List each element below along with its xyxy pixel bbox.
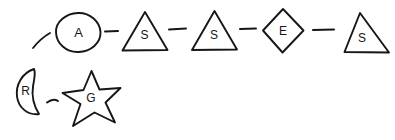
connector-s2-to-e [240,29,256,30]
node-s2-label: S [210,28,218,42]
node-s-triangle-1[interactable]: S [123,12,168,51]
node-r-crescent[interactable]: R [17,69,39,114]
node-s3-label: S [358,31,366,45]
node-g-label: G [86,91,95,105]
node-r-label: R [21,84,30,98]
node-a-circle[interactable]: A [56,13,101,52]
node-a-label: A [74,25,83,40]
node-s-triangle-3[interactable]: S [345,13,390,53]
node-s1-label: S [140,28,148,42]
node-e-diamond[interactable]: E [263,9,304,53]
node-g-star[interactable]: G [63,71,121,126]
connector-e-to-s3 [313,30,334,31]
connector-r-to-g [47,100,58,103]
sketch-drawing: A S S E [0,0,395,140]
connector-a-to-s1 [105,31,118,32]
node-e-label: E [279,24,287,38]
node-s-triangle-2[interactable]: S [192,11,237,50]
connector-s1-to-s2 [169,29,186,30]
lead-in-arc [33,33,50,48]
sketch-canvas: A S S E [0,0,395,140]
